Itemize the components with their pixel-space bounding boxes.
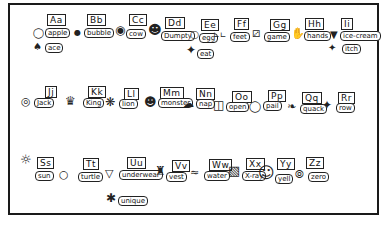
word-cow: cow — [126, 29, 146, 39]
letter-y: Yy — [277, 158, 295, 170]
word-vest: vest — [166, 172, 187, 182]
letter-b: Bb — [87, 14, 106, 26]
monster-icon: ☻ — [144, 97, 157, 107]
hands-icon: ✋ — [291, 29, 305, 39]
unique-icon: ✱ — [106, 193, 116, 203]
sun-icon: ☼ — [20, 155, 32, 165]
word-eat: eat — [197, 49, 214, 59]
itch-icon: ✦ — [328, 43, 336, 53]
word-feet: feet — [230, 32, 250, 42]
word-row: row — [336, 103, 355, 113]
door-icon: ◫ — [213, 100, 224, 110]
letter-s: Ss — [37, 157, 54, 169]
word-ice-cream: ice-cream — [340, 31, 381, 41]
zero-icon: ⦾ — [295, 170, 304, 180]
underwear-icon: ▽ — [105, 169, 113, 179]
letter-f: Ff — [234, 18, 249, 30]
word-ace: ace — [45, 43, 63, 53]
yell-icon: ☺ — [258, 168, 275, 178]
word-zero: zero — [308, 172, 329, 182]
letter-i: Ii — [341, 18, 353, 30]
word-itch: itch — [342, 44, 361, 54]
crown-icon: ♛ — [65, 96, 76, 106]
word-turtle: turtle — [78, 172, 103, 182]
word-king: King — [83, 98, 104, 108]
letter-q: Qq — [302, 92, 322, 104]
lion-icon: ❋ — [105, 97, 115, 107]
letter-e: Ee — [201, 19, 219, 31]
word-lion: lion — [119, 99, 138, 109]
letter-h: Hh — [305, 18, 324, 30]
duck-icon: ❧ — [287, 102, 296, 112]
word-game: game — [264, 32, 290, 42]
word-yell: yell — [275, 174, 293, 184]
turtle-icon: ○ — [59, 170, 69, 180]
letter-a: Aa — [47, 14, 66, 26]
bubble-icon: ● — [74, 28, 81, 38]
x-ray-icon: ▧ — [228, 166, 240, 176]
egg-icon: ◯ — [190, 30, 199, 40]
letter-z: Zz — [306, 157, 324, 169]
game-icon: ⚂ — [252, 29, 260, 39]
word-pail: pail — [263, 101, 282, 111]
eating-icon: ✦ — [186, 45, 196, 55]
word-open: open — [226, 102, 249, 112]
feet-icon: ∟∟ — [213, 31, 226, 41]
jack-icon: ◎ — [21, 97, 31, 107]
letter-k: Kk — [88, 86, 106, 98]
word-hands: hands — [304, 31, 331, 41]
letter-t: Tt — [83, 158, 99, 170]
letter-v: Vv — [172, 160, 190, 172]
humpty-dumpty-icon: ☻ — [148, 25, 162, 35]
word-water: water — [204, 171, 230, 181]
rowing-icon: ✦ — [322, 100, 332, 110]
word-apple: apple — [45, 28, 70, 38]
word-sun: sun — [35, 171, 54, 181]
letter-c: Cc — [129, 14, 147, 26]
apple-icon: ◯ — [33, 28, 44, 38]
nap-icon: ☁ — [183, 99, 194, 109]
letter-d: Dd — [165, 17, 185, 29]
water-icon: ≈ — [190, 168, 199, 178]
letter-j: Jj — [45, 86, 57, 98]
cow-icon: ◉ — [115, 25, 125, 35]
word-unique: unique — [118, 196, 148, 206]
letter-g: Gg — [270, 19, 290, 31]
ice-cream-icon: ▼ — [330, 30, 338, 40]
word-bubble: bubble — [84, 28, 114, 38]
letter-u: Uu — [127, 157, 146, 169]
vest-icon: ♜ — [155, 166, 166, 176]
ace-card-icon: ♠ — [33, 42, 42, 52]
word-jack: Jack — [34, 98, 54, 108]
pail-icon: ◯ — [249, 102, 261, 112]
